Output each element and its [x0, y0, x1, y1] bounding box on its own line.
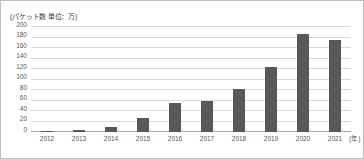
bar	[201, 101, 213, 133]
bar-slot	[223, 27, 255, 132]
bar	[329, 40, 341, 132]
x-axis-tick-label: 2014	[95, 134, 127, 143]
x-axis-tick-label: 2021	[319, 134, 351, 143]
bar	[105, 127, 117, 132]
y-axis-tick-label: 80	[20, 83, 27, 90]
bar-series	[31, 27, 351, 132]
bar-slot	[319, 27, 351, 132]
bar-slot	[159, 27, 191, 132]
bar-slot	[127, 27, 159, 132]
bar	[233, 89, 245, 132]
bar-slot	[63, 27, 95, 132]
bar	[137, 118, 149, 132]
x-axis-tick-label: 2017	[191, 134, 223, 143]
y-axis-tick-label: 0	[23, 125, 27, 132]
x-axis-tick-label: 2013	[63, 134, 95, 143]
bar	[169, 103, 181, 132]
x-axis-tick-label: 2012	[31, 134, 63, 143]
bar-slot	[95, 27, 127, 132]
y-axis-tick-label: 60	[20, 94, 27, 101]
y-axis-tick-label: 160	[16, 41, 27, 48]
bar-slot	[31, 27, 63, 132]
bar-slot	[287, 27, 319, 132]
x-axis-tick-label: 2016	[159, 134, 191, 143]
bar-slot	[255, 27, 287, 132]
x-axis-tick-label: 2018	[223, 134, 255, 143]
x-axis-tick-label: 2019	[255, 134, 287, 143]
x-axis-tick-label: 2020	[287, 134, 319, 143]
bar	[297, 34, 309, 132]
y-axis-tick-label: 200	[16, 20, 27, 27]
y-axis-tick-label: 40	[20, 104, 27, 111]
chart-figure: (パケット数 単位：万) 200180160140120100806040200…	[0, 0, 364, 159]
x-axis-tick-labels: 2012201320142015201620172018201920202021…	[31, 134, 351, 148]
y-axis-tick-label: 180	[16, 31, 27, 38]
bar	[265, 67, 277, 132]
y-axis-tick-label: 20	[20, 115, 27, 122]
bar	[73, 130, 85, 132]
plot-area: 200180160140120100806040200	[31, 27, 351, 132]
bar-slot	[191, 27, 223, 132]
bar	[41, 131, 53, 133]
x-axis-tick-label: 2015	[127, 134, 159, 143]
x-axis-unit-label: (年)	[349, 134, 360, 143]
y-axis-tick-label: 100	[16, 73, 27, 80]
y-axis-tick-label: 140	[16, 52, 27, 59]
y-axis-tick-label: 120	[16, 62, 27, 69]
